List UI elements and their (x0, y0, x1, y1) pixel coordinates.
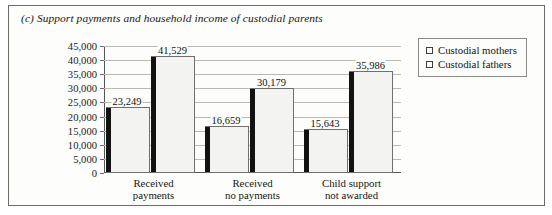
x-axis-category-label: Child supportnot awarded (322, 177, 381, 202)
plot-area: 45,00040,00035,00030,00025,00020,00015,0… (104, 46, 401, 173)
y-axis-tick-label: 15,000 (48, 125, 104, 136)
x-axis-category-label: Receivedpayments (133, 177, 174, 202)
x-axis-category-line: Child support (322, 177, 381, 189)
legend-item-custodial-fathers: Custodial fathers (426, 57, 517, 71)
legend-swatch-icon (426, 47, 433, 54)
x-axis-category-line: not awarded (322, 189, 381, 201)
y-axis-tick-label: 25,000 (48, 97, 104, 108)
bar: 16,659 (205, 126, 249, 173)
bar-left-stripe (151, 57, 156, 172)
bar: 23,249 (106, 107, 150, 173)
y-axis-tick-label: 20,000 (48, 111, 104, 122)
bar-value-label: 23,249 (112, 96, 143, 107)
bar: 41,529 (151, 56, 195, 173)
bar-left-stripe (349, 72, 354, 172)
y-axis-tick-label: 40,000 (48, 55, 104, 66)
figure-panel: (c) Support payments and household incom… (8, 5, 545, 206)
x-axis-category-line: Received (225, 177, 280, 189)
legend-swatch-icon (426, 61, 433, 68)
y-axis-tick-label: 30,000 (48, 83, 104, 94)
chart-legend: Custodial mothers Custodial fathers (418, 38, 527, 77)
bar: 30,179 (250, 88, 294, 173)
legend-label: Custodial fathers (438, 57, 511, 71)
bar-value-label: 16,659 (211, 115, 242, 126)
bar-left-stripe (106, 108, 111, 172)
bar-value-label: 30,179 (256, 77, 287, 88)
legend-label: Custodial mothers (438, 43, 517, 57)
bar-value-label: 15,643 (310, 118, 341, 129)
x-axis-category-label: Receivedno payments (225, 177, 280, 202)
bar-group: 23,24941,529 (104, 46, 203, 173)
y-axis-tick-label: 5,000 (48, 153, 104, 164)
figure-caption: (c) Support payments and household incom… (21, 12, 323, 24)
bar-group: 15,64335,986 (302, 46, 401, 173)
bar: 15,643 (304, 129, 348, 173)
y-axis-tick-label: 10,000 (48, 139, 104, 150)
x-axis-category-line: no payments (225, 189, 280, 201)
bar-value-label: 41,529 (157, 45, 188, 56)
y-axis-tick-label: 0 (48, 168, 104, 179)
x-axis-category-line: Received (133, 177, 174, 189)
bar: 35,986 (349, 71, 393, 173)
bar-group: 16,65930,179 (203, 46, 302, 173)
bar-left-stripe (250, 89, 255, 172)
bar-value-label: 35,986 (355, 60, 386, 71)
legend-item-custodial-mothers: Custodial mothers (426, 43, 517, 57)
x-axis-category-line: payments (133, 189, 174, 201)
bar-left-stripe (205, 127, 210, 172)
y-axis-tick-label: 35,000 (48, 69, 104, 80)
y-axis-tick-label: 45,000 (48, 41, 104, 52)
bar-left-stripe (304, 130, 309, 172)
